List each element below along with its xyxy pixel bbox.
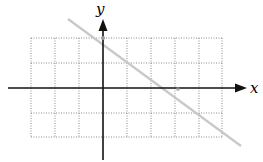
x-axis-arrow-icon	[235, 84, 247, 93]
y-axis	[99, 19, 108, 160]
coordinate-plane: x y	[0, 0, 263, 162]
point-y-intercept	[101, 36, 105, 40]
y-axis-label: y	[95, 0, 105, 18]
point-x-intercept	[176, 87, 180, 91]
x-axis-label: x	[250, 79, 259, 97]
y-axis-arrow-icon	[99, 19, 108, 31]
